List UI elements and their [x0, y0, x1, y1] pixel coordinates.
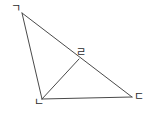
vertex-label-ra: ㄹ — [76, 47, 86, 58]
segment-na-ra — [42, 59, 79, 99]
vertex-label-ga: ㄱ — [11, 3, 21, 14]
vertex-label-da: ㄷ — [134, 91, 144, 102]
segment-na-da — [42, 97, 132, 99]
geometry-diagram: ㄱ ㄴ ㄷ ㄹ — [0, 0, 152, 113]
vertex-label-na: ㄴ — [34, 97, 44, 108]
